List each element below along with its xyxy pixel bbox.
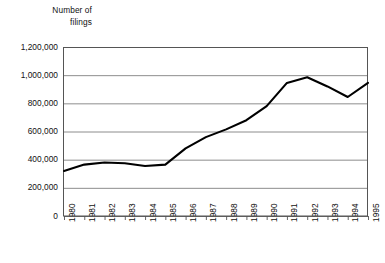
chart-gridlines (64, 48, 368, 217)
data-series-line (64, 77, 368, 171)
chart-container: Number of filings 0200,000400,000600,000… (0, 0, 385, 263)
chart-plot-area (0, 0, 385, 263)
